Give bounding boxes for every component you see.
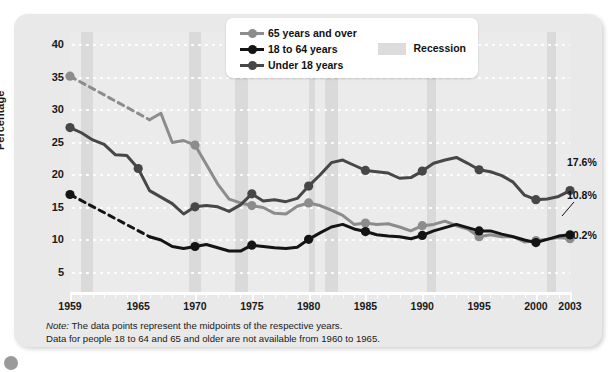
x-tick-1974	[240, 292, 241, 298]
x-axis-line	[70, 292, 572, 295]
legend-marker-adults-icon	[240, 42, 264, 56]
marker-under-18-years-1980	[304, 181, 313, 190]
x-label-1975: 1975	[240, 300, 263, 312]
x-tick-1963	[115, 292, 116, 298]
x-tick-1987	[388, 292, 389, 298]
y-tick-10: 10	[38, 234, 64, 245]
x-tick-1991	[434, 292, 435, 298]
x-tick-1973	[229, 292, 230, 298]
legend-item-under18: Under 18 years	[240, 57, 343, 71]
x-tick-1993	[456, 292, 457, 298]
x-tick-1982	[331, 292, 332, 298]
footnote-note-prefix: Note:	[46, 320, 69, 331]
marker-65-years-and-over-1959	[65, 72, 74, 81]
x-tick-1971	[206, 292, 207, 298]
marker-65-years-and-over-1980	[304, 198, 313, 207]
x-tick-1986	[377, 292, 378, 298]
marker-under-18-years-1995	[474, 165, 483, 174]
end-label-under18: 17.6%	[567, 156, 597, 168]
x-tick-1977	[275, 292, 276, 298]
x-tick-1968	[172, 292, 173, 298]
footnote-line-2: Data for people 18 to 64 and 65 and olde…	[46, 333, 380, 344]
marker-65-years-and-over-1975	[247, 201, 256, 210]
legend-item-recession: Recession	[378, 41, 466, 55]
x-tick-1988	[400, 292, 401, 298]
y-tick-20: 20	[38, 169, 64, 180]
chart-figure: Percentage 510152025303540 1959196519701…	[0, 0, 616, 372]
legend-marker-seniors-icon	[240, 26, 264, 40]
x-label-1985: 1985	[354, 300, 377, 312]
legend-label-recession: Recession	[413, 42, 466, 54]
marker-18-to-64-years-1975	[247, 241, 256, 250]
y-tick-40: 40	[38, 39, 64, 50]
marker-under-18-years-1990	[418, 167, 427, 176]
marker-18-to-64-years-1970	[190, 242, 199, 251]
x-tick-1984	[354, 292, 355, 298]
marker-under-18-years-2000	[531, 195, 540, 204]
x-label-1995: 1995	[467, 300, 490, 312]
x-tick-1999	[525, 292, 526, 298]
recession-swatch-icon	[378, 43, 406, 55]
x-tick-1983	[343, 292, 344, 298]
dashed-segment-18-to-64-years	[70, 195, 150, 237]
x-label-1990: 1990	[411, 300, 434, 312]
x-tick-1962	[104, 292, 105, 298]
x-label-2003: 2003	[558, 300, 581, 312]
x-label-2000: 2000	[524, 300, 547, 312]
x-label-1959: 1959	[58, 300, 81, 312]
marker-65-years-and-over-1970	[190, 141, 199, 150]
x-tick-1976	[263, 292, 264, 298]
marker-under-18-years-1975	[247, 189, 256, 198]
legend-item-seniors: 65 years and over	[240, 25, 357, 39]
x-label-1980: 1980	[297, 300, 320, 312]
y-axis-tick-labels: 510152025303540	[36, 32, 64, 292]
legend-item-adults: 18 to 64 years	[240, 41, 337, 55]
x-label-1965: 1965	[126, 300, 149, 312]
x-tick-2002	[559, 292, 560, 298]
x-tick-1964	[127, 292, 128, 298]
marker-18-to-64-years-1995	[474, 226, 483, 235]
end-label-seniors: 10.2%	[567, 229, 597, 241]
y-tick-5: 5	[38, 267, 64, 278]
marker-18-to-64-years-1980	[304, 235, 313, 244]
x-tick-1969	[184, 292, 185, 298]
marker-under-18-years-1959	[65, 123, 74, 132]
x-tick-2001	[547, 292, 548, 298]
x-tick-1994	[468, 292, 469, 298]
y-tick-35: 35	[38, 72, 64, 83]
legend-marker-under18-icon	[240, 58, 264, 72]
marker-65-years-and-over-1985	[361, 219, 370, 228]
x-tick-1996	[490, 292, 491, 298]
y-tick-30: 30	[38, 104, 64, 115]
x-tick-1966	[150, 292, 151, 298]
x-label-1970: 1970	[183, 300, 206, 312]
marker-under-18-years-1965	[134, 164, 143, 173]
legend-label-under18: Under 18 years	[268, 58, 343, 72]
x-tick-1992	[445, 292, 446, 298]
legend: 65 years and over 18 to 64 years Under 1…	[226, 18, 478, 78]
footnote: Note: The data points represent the midp…	[46, 320, 516, 345]
x-tick-1989	[411, 292, 412, 298]
marker-18-to-64-years-1959	[65, 190, 74, 199]
x-tick-1960	[81, 292, 82, 298]
x-tick-1979	[297, 292, 298, 298]
line-under-18-years	[70, 128, 570, 214]
y-tick-25: 25	[38, 137, 64, 148]
marker-65-years-and-over-1990	[418, 221, 427, 230]
x-tick-1967	[161, 292, 162, 298]
x-tick-1981	[320, 292, 321, 298]
y-axis-title: Percentage	[0, 91, 6, 150]
x-tick-1997	[502, 292, 503, 298]
end-label-leader-line	[556, 198, 586, 228]
marker-18-to-64-years-1985	[361, 227, 370, 236]
legend-label-seniors: 65 years and over	[268, 26, 357, 40]
legend-label-adults: 18 to 64 years	[268, 42, 337, 56]
marker-18-to-64-years-1990	[418, 231, 427, 240]
page-corner-marker	[4, 356, 18, 370]
y-tick-15: 15	[38, 202, 64, 213]
x-tick-1978	[286, 292, 287, 298]
x-tick-1961	[93, 292, 94, 298]
footnote-line-1: The data points represent the midpoints …	[69, 320, 342, 331]
marker-18-to-64-years-2000	[531, 238, 540, 247]
x-tick-1972	[218, 292, 219, 298]
